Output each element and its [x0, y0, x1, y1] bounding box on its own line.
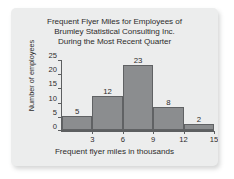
y-axis-tick-labels: 25 20 15 10 5 0: [41, 52, 57, 136]
bar-bin-9-12[interactable]: [153, 107, 183, 130]
histogram-figure-card: Frequent Flyer Miles for Employees of Br…: [11, 8, 218, 166]
x-tick-mark-9: [153, 131, 154, 134]
y-tick-label-0: 0: [41, 123, 57, 131]
bar-bin-3-6[interactable]: [92, 96, 122, 130]
bar-value-label-9-12: 8: [156, 98, 180, 107]
y-tick-mark-10: [58, 103, 62, 104]
x-tick-mark-15: [214, 131, 215, 134]
y-tick-label-5: 5: [41, 109, 57, 117]
bar-value-label-6-9: 23: [126, 56, 150, 65]
y-tick-mark-15: [58, 88, 62, 89]
x-tick-label-9: 9: [143, 135, 163, 144]
y-tick-mark-20: [58, 74, 62, 75]
y-tick-mark-25: [58, 60, 62, 61]
x-axis-line: [61, 130, 214, 132]
bar-bin-0-3[interactable]: [62, 116, 92, 130]
y-tick-label-15: 15: [41, 80, 57, 88]
bar-value-label-0-3: 5: [65, 107, 89, 116]
y-axis-title: Number of employees: [27, 36, 36, 116]
x-tick-mark-12: [184, 131, 185, 134]
x-tick-label-3: 3: [82, 135, 102, 144]
x-tick-label-12: 12: [174, 135, 194, 144]
y-tick-label-10: 10: [41, 95, 57, 103]
x-tick-label-15: 15: [204, 135, 218, 144]
bar-value-label-3-6: 12: [96, 87, 120, 96]
plot-area: Number of employees 25 20 15 10 5 0 5: [11, 8, 218, 166]
y-tick-label-25: 25: [41, 52, 57, 60]
bar-value-label-12-15: 2: [187, 115, 211, 124]
y-tick-label-20: 20: [41, 66, 57, 74]
x-axis-title: Frequent flyer miles in thousands: [11, 147, 218, 156]
x-tick-label-6: 6: [113, 135, 133, 144]
x-tick-mark-6: [123, 131, 124, 134]
x-tick-mark-3: [92, 131, 93, 134]
bar-bin-6-9[interactable]: [123, 65, 153, 130]
